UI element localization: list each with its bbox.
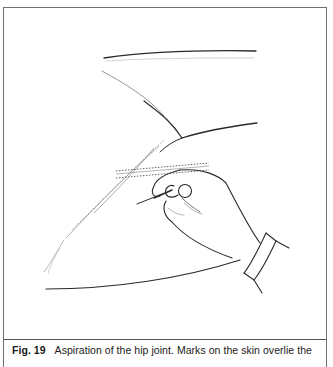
figure-frame: Fig. 19Aspiration of the hip joint. Mark… <box>3 7 327 367</box>
caption-text: Aspiration of the hip joint. Marks on th… <box>55 344 312 356</box>
body-outline <box>46 51 257 289</box>
figure-caption: Fig. 19Aspiration of the hip joint. Mark… <box>12 344 324 356</box>
figure-label: Fig. 19 <box>12 344 46 356</box>
vessel-lines <box>44 140 164 274</box>
shirt-cuff <box>244 233 289 293</box>
hand <box>152 170 260 258</box>
caption-divider <box>4 339 326 340</box>
hip-aspiration-illustration <box>4 8 326 339</box>
needle <box>137 190 172 204</box>
